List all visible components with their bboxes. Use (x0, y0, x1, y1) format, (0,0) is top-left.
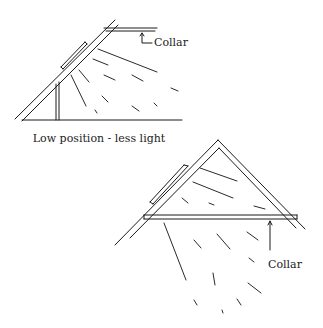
light-ray (154, 103, 157, 106)
skylight-end-a (150, 202, 153, 204)
light-ray (132, 75, 143, 81)
collar-label-bottom: Collar (268, 258, 303, 271)
skylight-end-b (184, 165, 188, 166)
light-ray (93, 59, 108, 65)
skylight-end-a (61, 67, 63, 69)
rafter-outer (15, 20, 115, 119)
light-ray (98, 49, 157, 72)
light-ray (222, 310, 223, 313)
right-rafter-outer (218, 140, 305, 229)
light-ray (237, 299, 241, 305)
light-ray (71, 75, 86, 106)
collar-label-top: Collar (154, 36, 189, 49)
light-ray (209, 203, 214, 205)
light-ray (95, 110, 97, 113)
light-ray (213, 273, 215, 285)
light-ray (247, 232, 258, 240)
light-ray (79, 70, 89, 82)
light-ray (200, 168, 237, 181)
light-ray (217, 234, 230, 249)
caption-low-position: Low position - less light (33, 132, 166, 145)
right-rafter-inner (219, 148, 296, 228)
light-ray (164, 223, 186, 280)
light-ray (249, 258, 254, 262)
light-ray (194, 300, 197, 305)
light-ray (102, 96, 108, 102)
bottom-diagram: Collar (115, 140, 305, 313)
light-ray (182, 198, 188, 203)
rafter-inner (22, 25, 118, 121)
top-diagram: Collar (15, 20, 189, 121)
light-ray (193, 182, 233, 198)
skylight-end-b (85, 42, 87, 44)
skylight-bottom (63, 44, 87, 69)
light-ray (132, 106, 139, 111)
light-ray (171, 88, 178, 91)
left-rafter-inner (130, 148, 219, 238)
light-ray (104, 75, 115, 80)
skylight-top (61, 42, 85, 67)
light-ray (254, 206, 265, 209)
skylight-top (150, 165, 184, 202)
roof-light-diagram: Collar Low position - less light (0, 0, 323, 328)
light-ray (248, 283, 261, 293)
light-ray (194, 240, 201, 248)
